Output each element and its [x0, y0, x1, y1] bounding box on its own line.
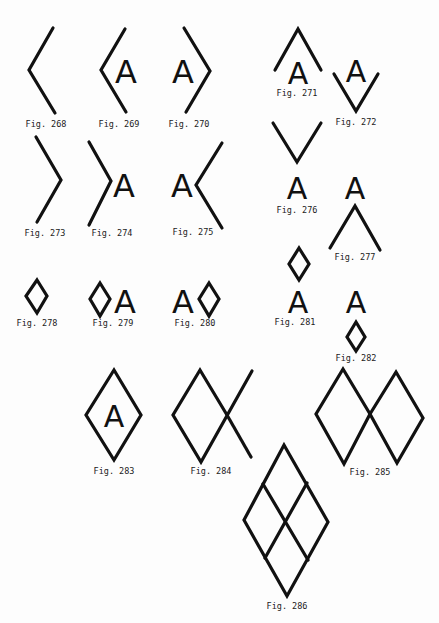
letter-a-glyph: A	[345, 171, 366, 206]
diamond-icon	[289, 248, 309, 280]
letter-a-glyph: A	[113, 167, 135, 205]
figure-caption: Fig. 271	[277, 88, 318, 98]
chevron-left-icon	[29, 28, 55, 113]
figure-caption: Fig. 283	[94, 466, 135, 476]
letter-a-glyph: A	[114, 283, 136, 321]
letter-a-glyph: A	[115, 53, 137, 91]
figure-caption: Fig. 274	[92, 228, 133, 238]
figure-caption: Fig. 269	[99, 119, 140, 129]
diamond-icon	[199, 283, 219, 316]
figure-caption: Fig. 282	[336, 353, 377, 363]
figure-caption: Fig. 284	[191, 466, 232, 476]
diamond-icon	[26, 280, 47, 313]
chevron-down-icon	[273, 123, 321, 162]
letter-a-glyph: A	[172, 53, 194, 91]
figure-caption: Fig. 285	[350, 467, 391, 477]
letter-a-glyph: A	[287, 171, 308, 206]
diamond-left-icon	[316, 369, 370, 464]
figure-caption: Fig. 278	[17, 318, 58, 328]
figure-caption: Fig. 272	[336, 117, 377, 127]
figure-caption: Fig. 280	[175, 318, 216, 328]
diamond-cross-icon	[173, 370, 252, 462]
figure-caption: Fig. 281	[275, 317, 316, 327]
chevron-right-icon	[89, 142, 111, 225]
letter-a-glyph: A	[288, 285, 309, 320]
figure-caption: Fig. 275	[173, 227, 214, 237]
figure-caption: Fig. 270	[169, 119, 210, 129]
chevron-right-icon	[36, 137, 61, 222]
letter-a-glyph: A	[288, 56, 309, 91]
letter-a-glyph: A	[346, 285, 367, 320]
chevron-left-icon	[196, 143, 222, 228]
diamond-right-icon	[370, 372, 423, 463]
letter-a-glyph: A	[104, 399, 125, 434]
diamond-icon	[90, 283, 110, 316]
figure-plate: A A A A A A A A A A A A A	[0, 0, 439, 623]
diamond-icon	[347, 322, 365, 351]
chevron-up-icon	[330, 206, 380, 250]
letter-a-glyph: A	[346, 54, 367, 89]
figure-caption: Fig. 273	[25, 228, 66, 238]
figure-caption: Fig. 286	[267, 601, 308, 611]
figure-caption: Fig. 277	[335, 252, 376, 262]
figure-caption: Fig. 279	[93, 318, 134, 328]
letter-a-glyph: A	[172, 283, 194, 321]
letter-a-glyph: A	[171, 167, 193, 205]
crossing-line	[227, 415, 251, 457]
figure-caption: Fig. 268	[26, 119, 67, 129]
figure-caption: Fig. 276	[277, 205, 318, 215]
